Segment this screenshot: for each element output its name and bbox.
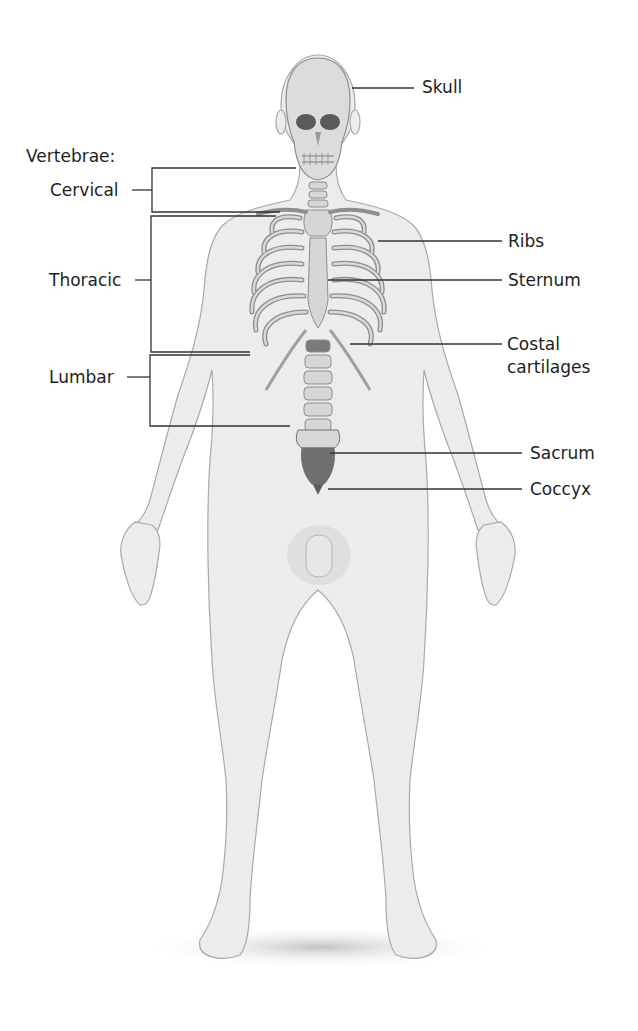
label-costal-line2: cartilages: [507, 356, 590, 379]
label-sternum: Sternum: [508, 270, 581, 290]
label-lumbar: Lumbar: [49, 367, 114, 387]
label-coccyx: Coccyx: [530, 479, 591, 499]
label-skull: Skull: [422, 77, 462, 97]
label-costal-cartilages: Costal cartilages: [507, 333, 590, 379]
label-cervical: Cervical: [50, 180, 119, 200]
label-vertebrae-heading: Vertebrae:: [26, 146, 115, 166]
skeleton-diagram: Skull Vertebrae: Cervical Thoracic Lumba…: [0, 0, 638, 1031]
label-sacrum: Sacrum: [530, 443, 595, 463]
label-ribs: Ribs: [508, 231, 544, 251]
body-silhouette: [121, 55, 515, 958]
pelvic-region-shading: [287, 525, 351, 585]
label-costal-line1: Costal: [507, 333, 590, 356]
floor-shadow: [140, 925, 500, 969]
skull: [286, 58, 350, 180]
label-thoracic: Thoracic: [49, 270, 121, 290]
